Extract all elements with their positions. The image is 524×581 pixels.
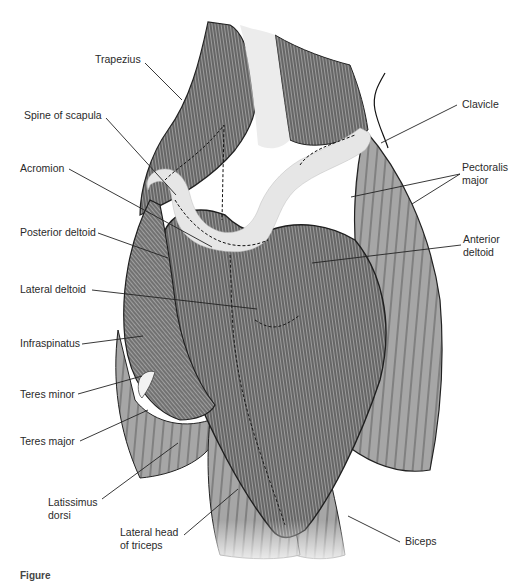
figure-caption: Figure [20, 570, 51, 581]
label-acromion: Acromion [20, 162, 64, 175]
label-lateral-deltoid: Lateral deltoid [20, 283, 86, 296]
upper-trapezius-band [275, 35, 368, 145]
leader-clavicle [381, 105, 457, 143]
label-trapezius: Trapezius [95, 53, 141, 66]
deltoid-region [165, 210, 386, 538]
clavicle-edge [374, 73, 388, 148]
label-teres-major: Teres major [20, 435, 75, 448]
leader-trapezius [145, 63, 182, 100]
label-spine-of-scapula: Spine of scapula [24, 109, 102, 122]
label-pectoralis-major: Pectoralis major [462, 161, 522, 187]
trapezius-region [140, 22, 256, 215]
label-anterior-deltoid: Anterior deltoid [463, 233, 517, 259]
label-clavicle: Clavicle [462, 98, 499, 111]
label-latissimus-dorsi: Latissimus dorsi [48, 496, 108, 522]
leader-pectoralis-major-b [412, 174, 460, 204]
label-biceps: Biceps [405, 535, 437, 548]
label-lateral-head-of-triceps: Lateral head of triceps [120, 526, 190, 552]
label-infraspinatus: Infraspinatus [20, 337, 80, 350]
label-teres-minor: Teres minor [20, 388, 75, 401]
label-posterior-deltoid: Posterior deltoid [20, 226, 96, 239]
